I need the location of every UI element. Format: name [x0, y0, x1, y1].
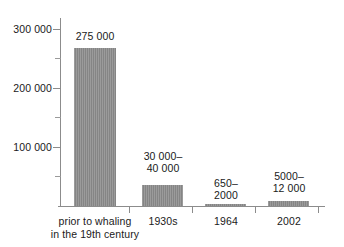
bar-value-line: 2000	[193, 189, 259, 201]
bar-value-line: 5000–	[256, 170, 322, 182]
x-tick-separator-2	[192, 207, 193, 213]
y-tick-label-100000-wrap: 100 000	[0, 142, 52, 153]
bar-1930s	[142, 185, 183, 206]
y-axis-line	[60, 18, 61, 207]
x-tick-separator-3	[255, 207, 256, 213]
bar-value-line: 650–	[193, 177, 259, 189]
bar-value-label-1964: 650– 2000	[193, 177, 259, 201]
bar-1964	[205, 204, 246, 206]
bar-value-line: 275 000	[62, 30, 128, 42]
x-category-line: in the 19th century	[40, 228, 150, 241]
x-category-label-1930s: 1930s	[130, 215, 196, 228]
x-category-line: 1964	[193, 215, 259, 228]
bar-value-label-prior-to-whaling: 275 000	[62, 30, 128, 42]
x-category-line: 1930s	[130, 215, 196, 228]
bar-chart: 300 000 200 000 100 000 275 000 30 000– …	[0, 0, 344, 247]
x-tick-separator-4	[318, 207, 319, 213]
bar-2002	[268, 201, 309, 206]
bar-value-line: 30 000–	[130, 150, 196, 162]
y-tick-label-100000: 100 000	[0, 142, 52, 153]
x-category-label-1964: 1964	[193, 215, 259, 228]
bar-value-line: 12 000	[256, 182, 322, 194]
y-tick-minor-50000	[55, 176, 61, 177]
x-category-line: 2002	[256, 215, 322, 228]
y-tick-minor-250000	[55, 58, 61, 59]
y-tick-major-100000	[53, 147, 61, 148]
y-tick-label-300000: 300 000	[0, 24, 52, 35]
bar-value-label-2002: 5000– 12 000	[256, 170, 322, 194]
y-tick-label-200000-wrap: 200 000	[0, 83, 52, 94]
x-category-label-2002: 2002	[256, 215, 322, 228]
y-tick-label-200000: 200 000	[0, 83, 52, 94]
bar-value-label-1930s: 30 000– 40 000	[130, 150, 196, 174]
y-tick-major-300000	[53, 29, 61, 30]
y-tick-label-300000-wrap: 300 000	[0, 24, 52, 35]
x-tick-separator-1	[129, 207, 130, 213]
y-tick-minor-150000	[55, 117, 61, 118]
y-tick-major-200000	[53, 88, 61, 89]
bar-prior-to-whaling	[74, 48, 116, 206]
bar-value-line: 40 000	[130, 162, 196, 174]
